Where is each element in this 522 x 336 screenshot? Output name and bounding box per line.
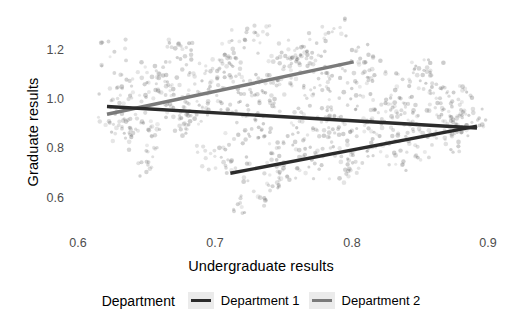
- scatter-point: [404, 105, 407, 108]
- scatter-point: [258, 41, 261, 44]
- scatter-point: [112, 50, 116, 54]
- scatter-point: [153, 88, 157, 92]
- scatter-point: [447, 95, 450, 98]
- scatter-point: [185, 101, 189, 105]
- scatter-point: [197, 122, 200, 125]
- scatter-point: [164, 115, 168, 119]
- scatter-point: [301, 138, 305, 142]
- scatter-point: [268, 130, 272, 134]
- scatter-point: [391, 128, 395, 132]
- scatter-point: [108, 86, 112, 90]
- scatter-point: [223, 131, 227, 135]
- scatter-point: [297, 148, 302, 153]
- scatter-point: [371, 154, 374, 157]
- y-tick-labels: 1.2 1.0 0.8 0.6: [18, 0, 64, 236]
- scatter-point: [190, 41, 194, 45]
- scatter-point: [458, 84, 462, 88]
- scatter-point: [338, 146, 342, 150]
- scatter-point: [458, 103, 462, 107]
- scatter-point: [191, 71, 195, 75]
- scatter-point: [204, 156, 208, 160]
- scatter-point: [177, 83, 181, 87]
- scatter-point: [396, 111, 399, 114]
- scatter-point: [225, 171, 229, 175]
- scatter-point: [384, 98, 388, 102]
- scatter-point: [429, 89, 432, 92]
- scatter-point: [209, 152, 213, 156]
- scatter-point: [328, 177, 331, 180]
- scatter-point: [265, 32, 269, 36]
- scatter-point: [389, 102, 392, 105]
- scatter-point: [145, 143, 149, 147]
- scatter-point: [235, 121, 239, 125]
- legend-item-department-1[interactable]: Department 1: [188, 292, 300, 309]
- scatter-point: [146, 150, 150, 154]
- scatter-point: [268, 189, 272, 193]
- scatter-point: [170, 45, 174, 49]
- scatter-point: [233, 56, 236, 59]
- scatter-point: [309, 88, 312, 91]
- scatter-point: [363, 124, 366, 127]
- scatter-point: [229, 160, 233, 164]
- scatter-point: [151, 155, 154, 158]
- scatter-point: [295, 126, 298, 129]
- scatter-point: [434, 106, 437, 109]
- scatter-point: [449, 101, 453, 105]
- scatter-point: [192, 116, 197, 121]
- scatter-point: [456, 144, 460, 148]
- scatter-point: [263, 198, 268, 203]
- scatter-point: [347, 158, 351, 162]
- scatter-point: [214, 166, 218, 170]
- scatter-point: [345, 142, 350, 147]
- scatter-point: [338, 26, 342, 30]
- scatter-point: [146, 163, 150, 167]
- scatter-point: [419, 79, 422, 82]
- scatter-point: [232, 51, 236, 55]
- scatter-point: [117, 123, 121, 127]
- scatter-point: [427, 156, 431, 160]
- scatter-point: [187, 88, 191, 92]
- scatter-point: [171, 115, 176, 120]
- scatter-point: [230, 28, 234, 32]
- x-tick-label: 0.6: [55, 236, 101, 250]
- scatter-point: [482, 125, 486, 129]
- scatter-point: [350, 87, 354, 91]
- scatter-point: [113, 132, 117, 136]
- scatter-point: [117, 119, 121, 123]
- scatter-point: [164, 73, 168, 77]
- scatter-point: [354, 108, 357, 111]
- scatter-point: [277, 154, 281, 158]
- scatter-point: [297, 61, 301, 65]
- scatter-point: [139, 99, 143, 103]
- scatter-point: [196, 151, 199, 154]
- legend-swatch-department-1: [188, 292, 214, 309]
- legend-item-department-2[interactable]: Department 2: [309, 292, 421, 309]
- scatter-point: [292, 110, 297, 115]
- scatter-point: [349, 153, 353, 157]
- scatter-point: [277, 61, 281, 65]
- scatter-point: [328, 136, 331, 139]
- scatter-point: [198, 62, 202, 66]
- scatter-point: [395, 114, 400, 119]
- scatter-point: [320, 106, 324, 110]
- scatter-point: [317, 167, 321, 171]
- scatter-point: [346, 81, 350, 85]
- scatter-point: [165, 45, 169, 49]
- scatter-point: [413, 103, 418, 108]
- scatter-point: [329, 146, 333, 150]
- scatter-point: [127, 140, 132, 145]
- scatter-point: [223, 70, 226, 73]
- scatter-point: [354, 48, 358, 52]
- scatter-point: [268, 100, 273, 105]
- scatter-point: [144, 170, 148, 174]
- scatter-point: [430, 81, 434, 85]
- x-tick-label: 0.9: [465, 236, 511, 250]
- scatter-point: [200, 79, 203, 82]
- scatter-point: [267, 73, 272, 78]
- scatter-point: [257, 136, 260, 139]
- scatter-point: [428, 69, 432, 73]
- scatter-point: [441, 119, 445, 123]
- y-tick-label: 0.8: [20, 141, 64, 155]
- scatter-point: [242, 92, 246, 96]
- scatter-point: [278, 170, 282, 174]
